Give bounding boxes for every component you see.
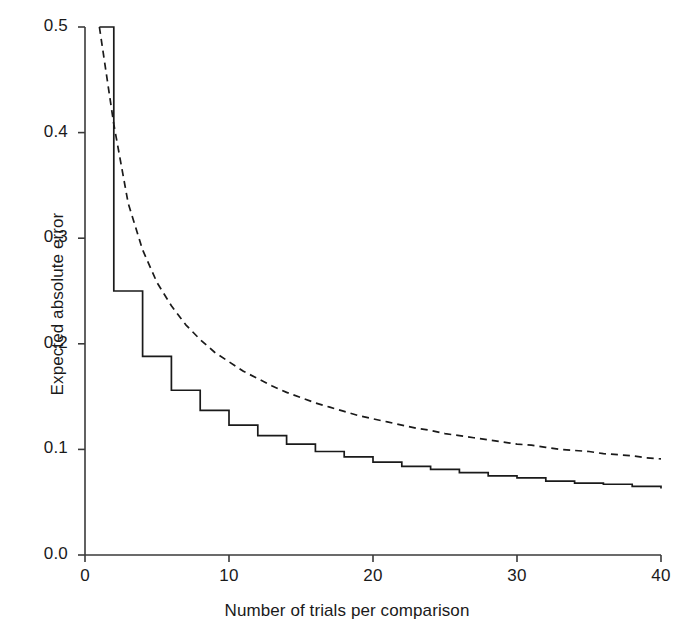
y-tick-label-04: 0.4 <box>8 122 68 142</box>
x-tick-label-10: 10 <box>199 566 259 586</box>
y-axis-label: Expected absolute error <box>48 139 74 469</box>
series-exact-line <box>99 27 661 488</box>
y-tick-label-03: 0.3 <box>8 227 68 247</box>
y-tick-label-05: 0.5 <box>8 16 68 36</box>
chart-figure: Expected absolute error Number of trials… <box>0 0 694 644</box>
x-axis-label: Number of trials per comparison <box>0 601 694 621</box>
x-tick-label-30: 30 <box>487 566 547 586</box>
y-axis-ticks <box>78 27 85 555</box>
axis-lines <box>85 27 661 555</box>
chart-canvas <box>0 0 694 644</box>
x-tick-label-40: 40 <box>631 566 691 586</box>
x-axis-ticks <box>85 555 661 562</box>
y-tick-label-02: 0.2 <box>8 333 68 353</box>
x-tick-label-20: 20 <box>343 566 403 586</box>
series-normal-approx-line <box>99 27 661 459</box>
x-tick-label-0: 0 <box>55 566 115 586</box>
y-tick-label-01: 0.1 <box>8 438 68 458</box>
y-tick-label-00: 0.0 <box>8 544 68 564</box>
